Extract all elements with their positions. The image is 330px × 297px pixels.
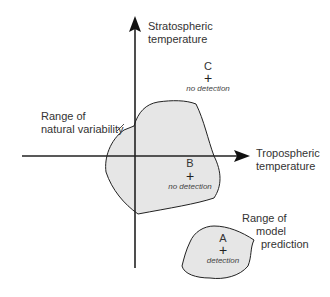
model-label-line3: prediction	[261, 238, 309, 251]
natural-label-line1: Range of	[41, 110, 86, 123]
natural-variability-region	[106, 101, 220, 214]
point-b-marker-icon: +	[182, 170, 198, 182]
natural-label-line2: natural variability	[41, 123, 124, 136]
point-c-note: no detection	[178, 84, 238, 94]
x-axis-label-line1: Tropospheric	[256, 147, 320, 160]
point-c-marker-icon: +	[200, 72, 216, 84]
point-a-note: detection	[193, 256, 253, 266]
point-a-marker-icon: +	[215, 244, 231, 256]
model-label-line2: model	[256, 225, 286, 238]
x-axis-label-line2: temperature	[256, 160, 315, 173]
y-axis-label-line2: temperature	[148, 33, 207, 46]
model-label-line1: Range of	[242, 212, 287, 225]
point-b-note: no detection	[160, 182, 220, 192]
y-axis-label-line1: Stratospheric	[148, 20, 213, 33]
